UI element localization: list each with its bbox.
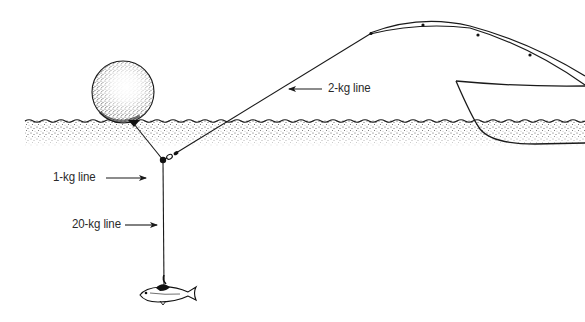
label-one-kg-line: 1-kg line [53, 170, 96, 184]
float-buoy [92, 61, 154, 127]
rod-guide [421, 23, 424, 26]
diagram-canvas [0, 0, 585, 322]
twenty-kg-line [163, 162, 164, 287]
rod-guide [476, 33, 479, 36]
bait-fish [140, 275, 196, 305]
swivel-clip [160, 150, 179, 163]
water-surface [25, 120, 585, 146]
fishing-rod [369, 21, 585, 85]
rod-guide [369, 32, 372, 35]
label-two-kg-line: 2-kg line [328, 81, 371, 95]
label-twenty-kg-line: 20-kg line [72, 217, 121, 231]
rod-guide [528, 53, 531, 56]
fishing-rig-diagram: 1-kg line 2-kg line 20-kg line [0, 0, 585, 322]
